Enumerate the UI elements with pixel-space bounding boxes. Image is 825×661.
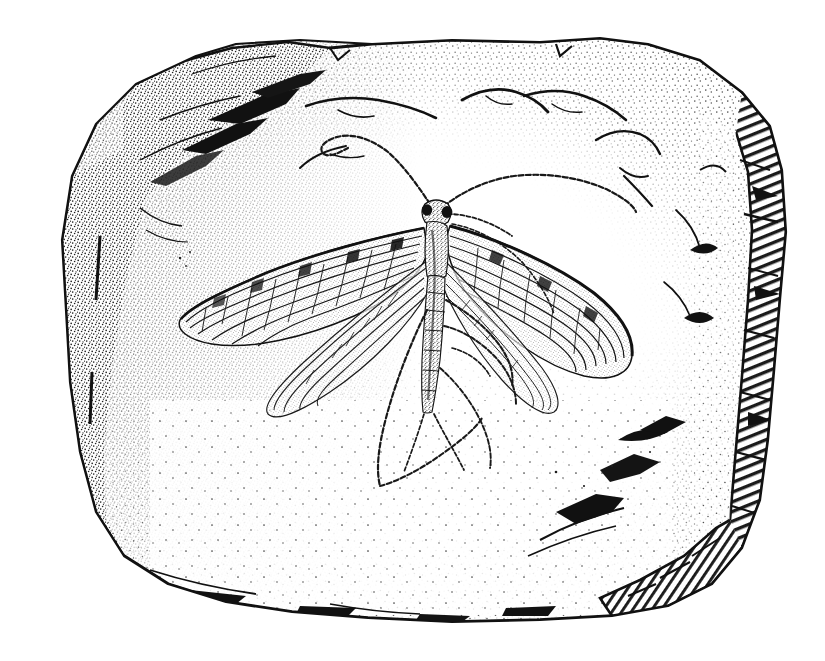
insect-eye-left <box>422 204 432 216</box>
rock-slab <box>55 30 795 630</box>
fossil-illustration-figure: Fossil insect preserved in rock slab win… <box>0 0 825 661</box>
illustration-canvas <box>0 0 825 661</box>
insect-thorax <box>425 222 448 280</box>
insect-eye-right <box>442 206 453 218</box>
